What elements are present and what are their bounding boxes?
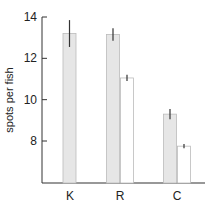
labels: 8101214spots per fishKRC xyxy=(3,10,182,203)
bar-chart: 8101214spots per fishKRC xyxy=(0,0,214,206)
y-axis-label: spots per fish xyxy=(3,67,15,132)
bar-K-gray xyxy=(63,34,76,183)
y-tick-label: 14 xyxy=(24,10,38,24)
bar-R-white xyxy=(121,78,134,183)
y-tick-label: 10 xyxy=(24,93,38,107)
bar-C-white xyxy=(178,146,191,183)
y-tick-label: 12 xyxy=(24,51,38,65)
bar-C-gray xyxy=(164,114,177,183)
y-tick-label: 8 xyxy=(30,134,37,148)
bars xyxy=(63,20,191,183)
x-category-label: C xyxy=(173,189,182,203)
x-category-label: K xyxy=(66,189,74,203)
x-category-label: R xyxy=(116,189,125,203)
bar-R-gray xyxy=(107,35,120,183)
